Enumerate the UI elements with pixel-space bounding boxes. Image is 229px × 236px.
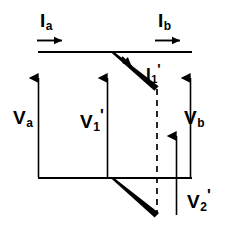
voltage-b-label-sub: b (197, 116, 204, 130)
current-b-label-sub: b (164, 19, 171, 33)
voltage-b-label: Vb (184, 108, 205, 129)
lower-tapered-branch (111, 177, 159, 217)
current-1-prime-label-prime: ' (157, 61, 160, 77)
current-b-label-base: I (158, 10, 163, 31)
voltage-1-prime-label: V1' (80, 108, 103, 133)
current-b-label: Ib (158, 11, 171, 32)
voltage-1-prime-label-prime: ' (100, 107, 103, 124)
voltage-2-prime-label-prime: ' (207, 187, 210, 204)
voltage-1-prime-label-sub: 1 (93, 120, 100, 134)
current-1-prime-label: I1' (146, 62, 160, 85)
current-a-label-sub: a (46, 19, 53, 33)
voltage-a-label-base: V (13, 107, 26, 128)
voltage-a-label: Va (13, 108, 33, 129)
voltage-2-prime-label-base: V (187, 191, 200, 212)
current-a-label-base: I (40, 10, 45, 31)
voltage-2-prime-label-sub: 2 (200, 200, 207, 214)
circuit-diagram-figure: Ia Ib I1' Va V1' Vb V2' (0, 0, 229, 236)
voltage-b-label-base: V (184, 107, 197, 128)
voltage-2-prime-label: V2' (187, 188, 210, 213)
voltage-1-prime-label-base: V (80, 111, 93, 132)
voltage-a-label-sub: a (26, 116, 33, 130)
current-a-label: Ia (40, 11, 52, 32)
